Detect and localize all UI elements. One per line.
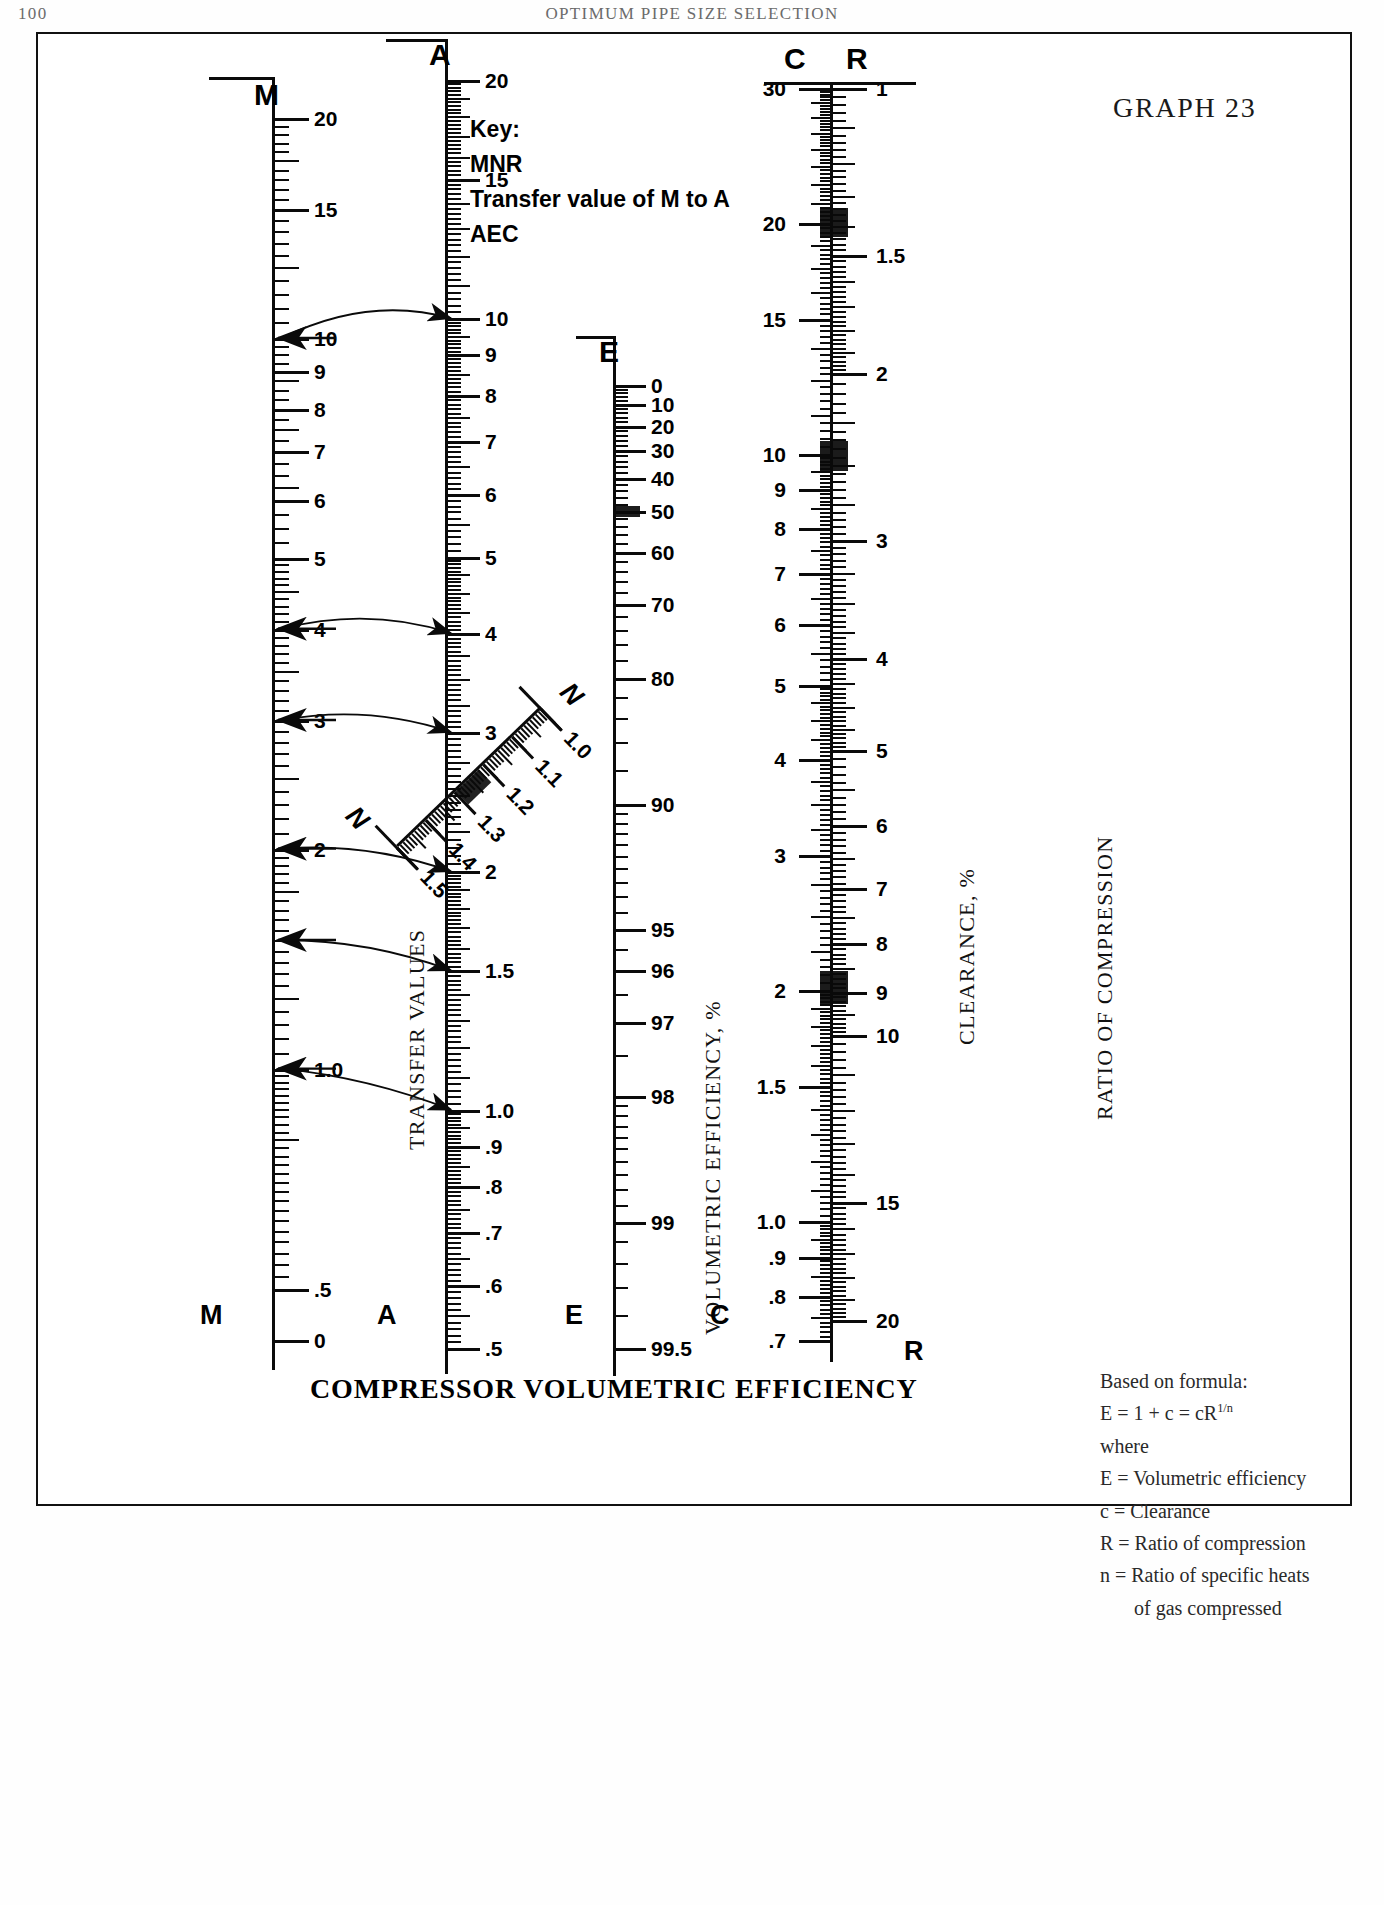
c-r-head-cap (764, 82, 916, 85)
minor-tick-c (811, 653, 833, 655)
minor-tick-c (811, 1109, 833, 1111)
axis-name-c-bottom: C (710, 1300, 730, 1331)
minor-tick-c (811, 348, 833, 350)
minor-tick-r (833, 1244, 846, 1246)
minor-tick-c (811, 1190, 833, 1192)
minor-tick-c (820, 1057, 833, 1059)
minor-tick-c (820, 903, 833, 905)
minor-tick-r (833, 948, 846, 950)
minor-tick-c (820, 1235, 833, 1237)
major-tick-c (799, 1086, 833, 1089)
minor-tick-r (833, 348, 846, 350)
minor-tick-r (833, 1228, 855, 1230)
minor-tick-r (833, 716, 846, 718)
major-tick-r (833, 1202, 867, 1205)
minor-tick-c (820, 966, 833, 968)
minor-tick-r (833, 1308, 846, 1310)
minor-tick-r (833, 883, 846, 885)
minor-tick-c (820, 367, 833, 369)
minor-tick-c (820, 890, 833, 892)
dense-tick-band (820, 208, 848, 236)
major-tick-c (799, 1340, 833, 1343)
minor-tick-r (833, 1286, 846, 1288)
tick-label-c: .9 (768, 1246, 786, 1267)
minor-tick-r (833, 1299, 855, 1301)
minor-tick-r (833, 894, 846, 896)
minor-tick-r (833, 688, 846, 690)
minor-tick-c (820, 120, 833, 122)
minor-tick-c (811, 1045, 833, 1047)
tick-label-r: 1 (876, 78, 888, 99)
minor-tick-r (833, 804, 846, 806)
minor-tick-c (820, 272, 833, 274)
minor-tick-r (833, 325, 846, 327)
minor-tick-r (833, 766, 846, 768)
minor-tick-c (820, 1336, 833, 1338)
minor-tick-c (820, 1225, 833, 1227)
minor-tick-r (833, 301, 846, 303)
minor-tick-c (811, 184, 833, 186)
minor-tick-c (820, 824, 833, 826)
minor-tick-c (820, 438, 833, 440)
minor-tick-c (820, 313, 833, 315)
minor-tick-c (820, 1242, 833, 1244)
minor-tick-c (820, 373, 833, 375)
minor-tick-r (833, 720, 846, 722)
minor-tick-r (833, 330, 855, 332)
dense-tick-band (820, 441, 848, 471)
minor-tick-r (833, 678, 846, 680)
minor-tick-c (820, 1178, 833, 1180)
minor-tick-r (833, 648, 846, 650)
scale-c-r[interactable]: 30201510987654321.51.0.9.8.711.523456789… (0, 0, 1384, 1905)
minor-tick-r (833, 839, 846, 841)
minor-tick-r (833, 512, 846, 514)
minor-tick-r (833, 673, 846, 675)
minor-tick-c (811, 916, 833, 918)
minor-tick-c (820, 155, 833, 157)
minor-tick-c (820, 772, 833, 774)
minor-tick-r (833, 733, 846, 735)
minor-tick-r (833, 933, 846, 935)
minor-tick-r (833, 1156, 846, 1158)
minor-tick-r (833, 1223, 846, 1225)
minor-tick-r (833, 1137, 846, 1139)
minor-tick-r (833, 579, 846, 581)
minor-tick-r (833, 1290, 846, 1292)
minor-tick-c (820, 641, 833, 643)
minor-tick-c (820, 768, 833, 770)
minor-tick-c (820, 1172, 833, 1174)
minor-tick-c (820, 524, 833, 526)
minor-tick-r (833, 1010, 846, 1012)
tick-label-r: 6 (876, 815, 888, 836)
minor-tick-r (833, 1196, 846, 1198)
minor-tick-c (820, 785, 833, 787)
minor-tick-c (820, 475, 833, 477)
minor-tick-r (833, 519, 846, 521)
minor-tick-c (820, 608, 833, 610)
minor-tick-c (820, 735, 833, 737)
minor-tick-r (833, 702, 846, 704)
minor-tick-c (820, 930, 833, 932)
tick-label-r: 2 (876, 363, 888, 384)
minor-tick-c (820, 1166, 833, 1168)
minor-tick-c (820, 747, 833, 749)
major-tick-r (833, 943, 867, 946)
minor-tick-r (833, 560, 846, 562)
minor-tick-c (811, 471, 833, 473)
minor-tick-c (811, 117, 833, 119)
minor-tick-c (820, 937, 833, 939)
minor-tick-r (833, 1179, 846, 1181)
major-tick-r (833, 255, 867, 258)
minor-tick-c (820, 1322, 833, 1324)
minor-tick-c (820, 613, 833, 615)
minor-tick-r (833, 481, 846, 483)
minor-tick-r (833, 190, 846, 192)
minor-tick-r (833, 1168, 846, 1170)
minor-tick-c (820, 688, 833, 690)
minor-tick-c (820, 790, 833, 792)
minor-tick-r (833, 782, 846, 784)
minor-tick-c (820, 861, 833, 863)
minor-tick-r (833, 291, 846, 293)
minor-tick-c (820, 1232, 833, 1234)
minor-tick-c (820, 1091, 833, 1093)
